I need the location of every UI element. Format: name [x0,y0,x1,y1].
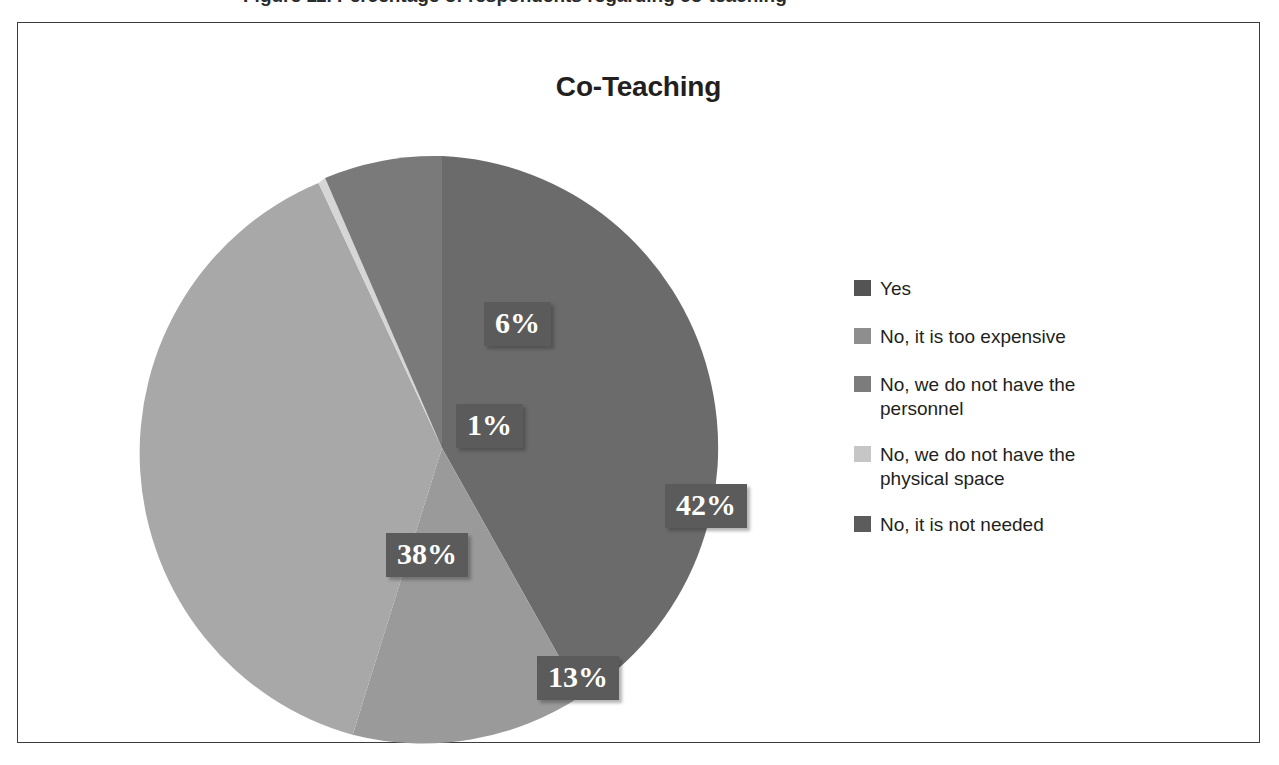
legend-item-yes[interactable]: Yes [854,277,1194,301]
legend-swatch-icon-too-expensive [854,328,871,344]
legend-swatch-icon-physical-space [854,446,871,462]
pie-chart: 42% 38% 13% 1% 6% [136,133,748,758]
legend-label-too-expensive: No, it is too expensive [880,325,1066,349]
data-label-too-expensive: 38% [386,533,468,577]
legend-label-physical-space: No, we do not have the physical space [880,443,1130,491]
data-label-not-needed: 6% [484,302,551,346]
figure-caption-text: Figure 11. Percentage of respondents reg… [243,0,1043,7]
legend-label-yes: Yes [880,277,911,301]
figure-caption-strip: Figure 11. Percentage of respondents reg… [0,0,1279,13]
legend-swatch-icon-yes [854,280,871,296]
legend-item-physical-space[interactable]: No, we do not have the physical space [854,443,1194,491]
data-label-yes: 42% [665,484,747,528]
legend-swatch-icon-not-needed [854,516,871,532]
chart-title: Co-Teaching [18,71,1259,103]
data-label-personnel: 13% [537,656,619,700]
figure-frame: Co-Teaching 42% 38% 13% 1% 6% Yes [17,22,1260,743]
legend-swatch-icon-personnel [854,376,871,392]
legend-label-not-needed: No, it is not needed [880,513,1044,537]
data-label-physical-space: 1% [456,404,523,448]
pie-chart-svg [136,133,748,758]
legend-item-too-expensive[interactable]: No, it is too expensive [854,325,1194,349]
legend-item-personnel[interactable]: No, we do not have the personnel [854,373,1194,421]
legend-item-not-needed[interactable]: No, it is not needed [854,513,1194,537]
legend-label-personnel: No, we do not have the personnel [880,373,1130,421]
chart-legend: Yes No, it is too expensive No, we do no… [854,277,1194,561]
